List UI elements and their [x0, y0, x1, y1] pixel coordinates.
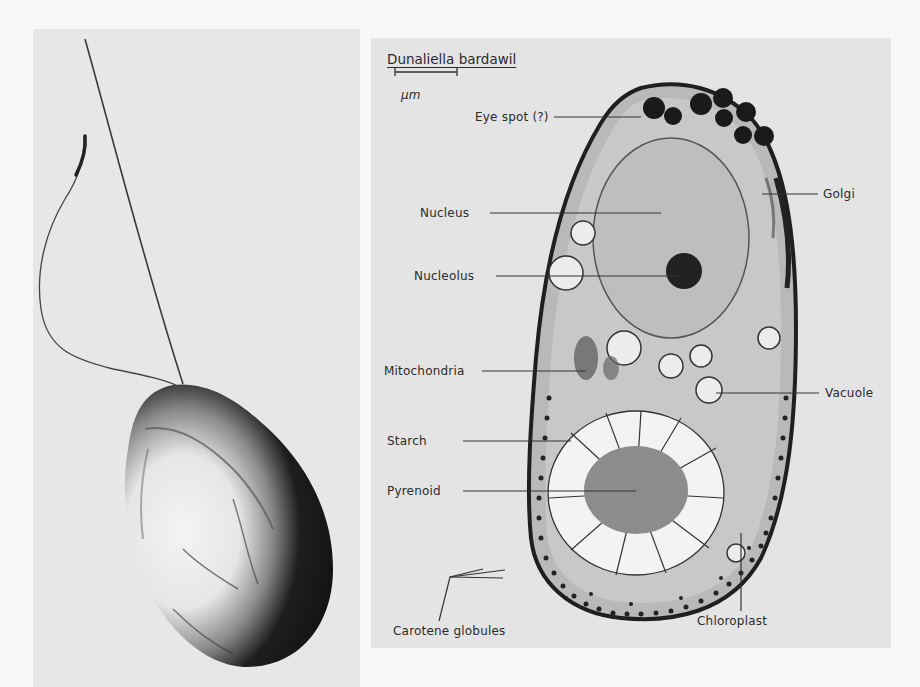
mitochondria [574, 336, 598, 380]
scale-bar [395, 68, 457, 76]
pyrenoid [584, 446, 688, 534]
scale-bar-label: μm [401, 88, 420, 102]
flagellum-short [39, 137, 178, 386]
label-golgi: Golgi [823, 187, 855, 201]
label-eye-spot: Eye spot (?) [475, 110, 549, 124]
label-vacuole: Vacuole [825, 386, 873, 400]
whole-cell-panel [33, 29, 360, 687]
nucleolus [666, 253, 702, 289]
label-chloroplast: Chloroplast [697, 614, 767, 628]
cell-section-micrograph-icon [371, 38, 891, 648]
cell-body [125, 384, 333, 667]
label-pyrenoid: Pyrenoid [387, 484, 441, 498]
nucleus [593, 138, 749, 338]
cell-section-panel: Dunaliella bardawil [371, 38, 891, 648]
label-nucleus: Nucleus [420, 206, 469, 220]
label-mitochondria: Mitochondria [384, 364, 465, 378]
label-starch: Starch [387, 434, 427, 448]
label-nucleolus: Nucleolus [414, 269, 474, 283]
flagellum-long [85, 39, 183, 384]
label-carotene-globules: Carotene globules [393, 624, 506, 638]
whole-cell-micrograph-icon [33, 29, 360, 687]
